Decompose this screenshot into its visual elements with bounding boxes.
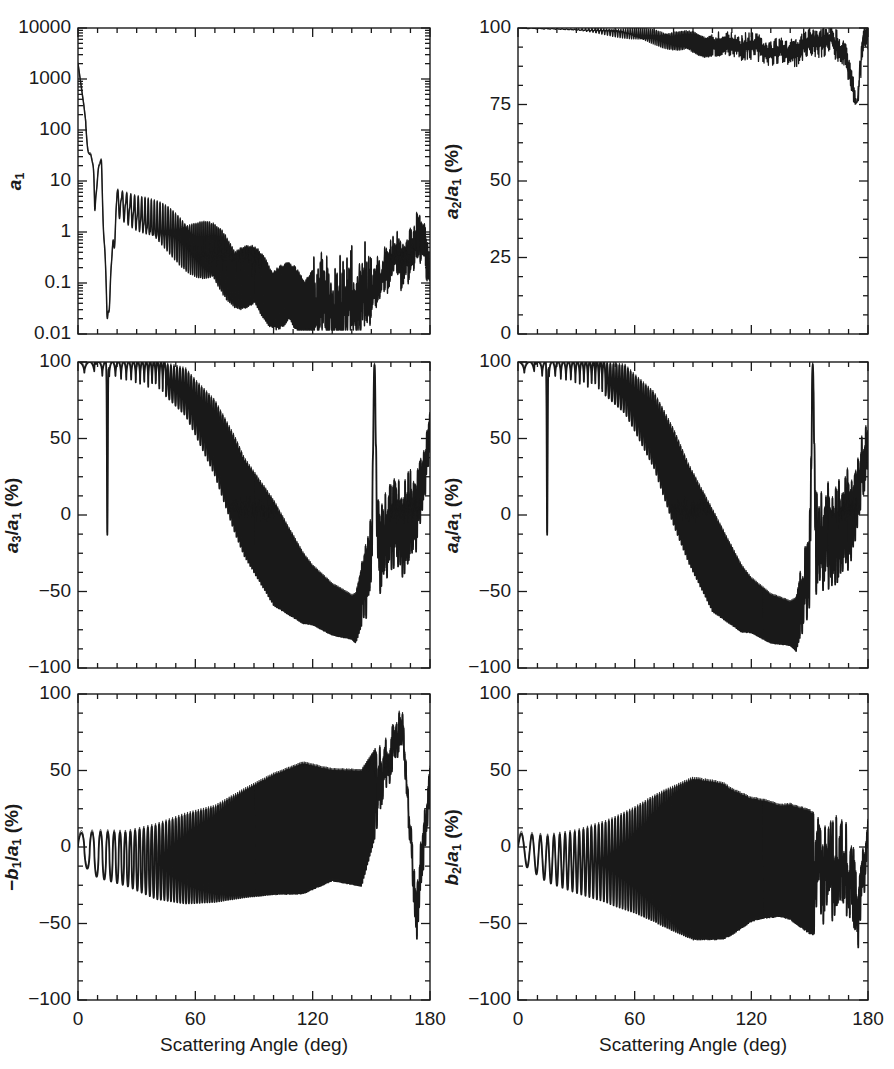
data-curve-b2_over_a1-1 <box>518 779 868 947</box>
ytick-label-b2_over_a1-0: 100 <box>479 682 511 704</box>
data-curve-minus_b1_over_a1-2 <box>78 711 430 937</box>
data-curve-a2_over_a1-1 <box>518 26 868 104</box>
ytick-label-a1-4: 1 <box>60 220 71 242</box>
ytick-label-minus_b1_over_a1-4: −100 <box>28 988 71 1010</box>
ytick-label-a3_over_a1-0: 100 <box>39 350 71 372</box>
x-axis-title-b2_over_a1: Scattering Angle (deg) <box>518 1034 868 1056</box>
ytick-label-a4_over_a1-1: 50 <box>490 427 511 449</box>
xtick-label-b2_over_a1-1: 60 <box>605 1008 665 1030</box>
ytick-label-minus_b1_over_a1-0: 100 <box>39 682 71 704</box>
xtick-label-minus_b1_over_a1-0: 0 <box>48 1008 108 1030</box>
ytick-label-a3_over_a1-3: −50 <box>39 580 71 602</box>
xtick-label-minus_b1_over_a1-2: 120 <box>283 1008 343 1030</box>
data-curve-a4_over_a1-1 <box>518 361 868 651</box>
plot-frame <box>78 362 430 668</box>
ytick-label-minus_b1_over_a1-2: 0 <box>60 835 71 857</box>
ytick-label-b2_over_a1-2: 0 <box>500 835 511 857</box>
ytick-label-a3_over_a1-2: 0 <box>60 503 71 525</box>
ytick-label-b2_over_a1-3: −50 <box>479 912 511 934</box>
tick-marks <box>78 28 430 334</box>
y-axis-label-a2_over_a1: a2/a1 (%) <box>441 143 464 218</box>
ytick-label-a2_over_a1-0: 100 <box>479 16 511 38</box>
tick-marks <box>78 694 430 1000</box>
y-axis-label-a4_over_a1: a4/a1 (%) <box>441 477 464 552</box>
tick-marks <box>518 362 868 668</box>
plot-frame <box>518 694 868 1000</box>
x-axis-title-minus_b1_over_a1: Scattering Angle (deg) <box>78 1034 430 1056</box>
ytick-label-a2_over_a1-2: 50 <box>490 169 511 191</box>
ytick-label-minus_b1_over_a1-3: −50 <box>39 912 71 934</box>
y-axis-label-b2_over_a1: b2/a1 (%) <box>441 809 464 885</box>
plot-frame <box>78 28 430 334</box>
xtick-label-b2_over_a1-3: 180 <box>838 1008 894 1030</box>
ytick-label-a4_over_a1-3: −50 <box>479 580 511 602</box>
xtick-label-minus_b1_over_a1-1: 60 <box>165 1008 225 1030</box>
ytick-label-b2_over_a1-1: 50 <box>490 759 511 781</box>
ytick-label-a2_over_a1-3: 25 <box>490 246 511 268</box>
ytick-label-a1-0: 10000 <box>18 16 71 38</box>
data-curve-a4_over_a1-2 <box>518 359 868 649</box>
ytick-label-a4_over_a1-2: 0 <box>500 503 511 525</box>
ytick-label-a1-3: 10 <box>50 169 71 191</box>
plot-frame <box>518 362 868 668</box>
y-axis-label-minus_b1_over_a1: −b1/a1 (%) <box>1 803 24 890</box>
xtick-label-minus_b1_over_a1-3: 180 <box>400 1008 460 1030</box>
xtick-label-b2_over_a1-2: 120 <box>721 1008 781 1030</box>
ytick-label-a2_over_a1-1: 75 <box>490 93 511 115</box>
ytick-label-a1-1: 1000 <box>29 67 71 89</box>
ytick-label-minus_b1_over_a1-1: 50 <box>50 759 71 781</box>
tick-marks <box>518 694 868 1000</box>
scattering-matrix-figure: 1000010001001010.10.01a11007550250a2/a1 … <box>0 0 894 1069</box>
y-axis-label-a3_over_a1: a3/a1 (%) <box>1 477 24 552</box>
plot-frame <box>518 28 868 334</box>
ytick-label-a1-6: 0.01 <box>34 322 71 344</box>
ytick-label-a3_over_a1-1: 50 <box>50 427 71 449</box>
ytick-label-a1-2: 100 <box>39 118 71 140</box>
tick-marks <box>518 28 868 334</box>
data-curve-a3_over_a1-1 <box>78 361 430 642</box>
ytick-label-a2_over_a1-4: 0 <box>500 322 511 344</box>
y-axis-label-a1: a1 <box>4 172 27 190</box>
tick-marks <box>78 362 430 668</box>
ytick-label-a1-5: 0.1 <box>45 271 71 293</box>
ytick-label-a3_over_a1-4: −100 <box>28 656 71 678</box>
plot-frame <box>78 694 430 1000</box>
data-curve-minus_b1_over_a1-1 <box>78 713 430 939</box>
ytick-label-a4_over_a1-0: 100 <box>479 350 511 372</box>
data-curve-a1-2 <box>78 62 430 328</box>
data-curve-b2_over_a1-2 <box>518 777 868 945</box>
data-curve-a3_over_a1-2 <box>78 359 430 640</box>
ytick-label-a4_over_a1-4: −100 <box>468 656 511 678</box>
xtick-label-b2_over_a1-0: 0 <box>488 1008 548 1030</box>
data-curve-a1-1 <box>78 64 430 330</box>
ytick-label-b2_over_a1-4: −100 <box>468 988 511 1010</box>
